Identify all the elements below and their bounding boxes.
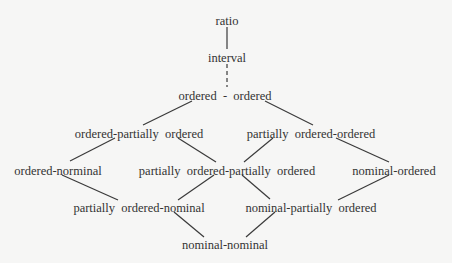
node-ord-nom: ordered-norminal xyxy=(14,164,101,178)
node-ratio: ratio xyxy=(216,14,239,28)
edge-pord_pord-to-nom_pord xyxy=(242,175,270,199)
node-nom-ord: nominal-ordered xyxy=(352,164,435,178)
edge-ord_ord-to-pord_ord xyxy=(265,101,313,125)
node-ord-pord: ordered-partially ordered xyxy=(75,127,203,141)
edge-pord_ord-to-pord_pord xyxy=(244,138,273,162)
node-pord-nom: partially ordered-nominal xyxy=(73,201,204,215)
edge-ord_pord-to-pord_pord xyxy=(178,138,216,162)
edge-ord_ord-to-ord_pord xyxy=(143,101,192,125)
node-pord-ord: partially ordered-ordered xyxy=(247,127,375,141)
edge-ord_nom-to-pord_nom xyxy=(62,175,118,200)
edge-nom_ord-to-nom_pord xyxy=(338,175,389,200)
edge-ord_pord-to-ord_nom xyxy=(70,138,115,161)
measurement-scale-lattice-diagram: ratiointervalordered - orderedordered-pa… xyxy=(0,0,452,263)
node-interval: interval xyxy=(208,51,246,65)
edge-pord_pord-to-pord_nom xyxy=(178,175,214,200)
edge-pord_nom-to-nom_nom xyxy=(174,212,204,237)
node-ord-ord: ordered - ordered xyxy=(178,89,271,103)
edges-layer xyxy=(0,0,452,263)
node-nom-nom: nominal-nominal xyxy=(182,238,268,252)
node-nom-pord: nominal-partially ordered xyxy=(245,201,376,215)
edge-nom_pord-to-nom_nom xyxy=(246,212,275,237)
edge-pord_ord-to-nom_ord xyxy=(336,138,389,162)
node-pord-pord: partially ordered-partially ordered xyxy=(139,164,315,178)
